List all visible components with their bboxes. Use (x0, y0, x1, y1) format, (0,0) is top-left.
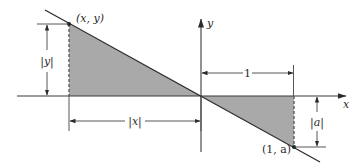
diagram-figure: (x, y) (1, a) y x |y| |x| 1 |a| (0, 0, 362, 167)
label-abs-x: |x| (128, 115, 142, 129)
label-x-axis: x (343, 98, 350, 111)
label-one: 1 (244, 67, 251, 80)
label-point-1a: (1, a) (262, 143, 291, 156)
label-abs-y: |y| (40, 55, 54, 69)
label-y-axis: y (206, 17, 214, 30)
label-point-xy: (x, y) (76, 12, 104, 25)
label-abs-a: |a| (310, 116, 324, 130)
